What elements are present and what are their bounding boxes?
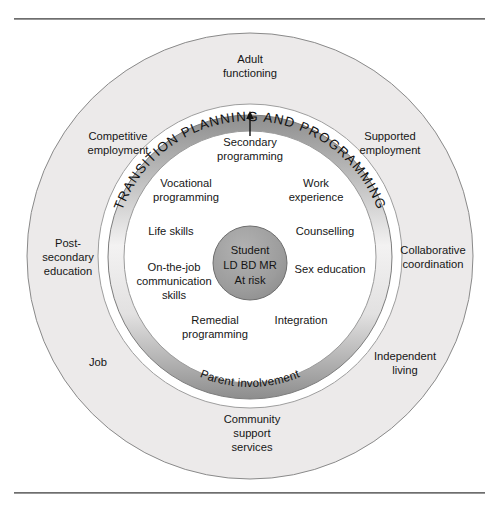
- label-line: Remedial: [191, 314, 238, 326]
- label-line: experience: [289, 191, 344, 203]
- label-line: support: [233, 427, 271, 439]
- label-counselling: Counselling: [296, 225, 354, 237]
- label-line: employment: [88, 144, 150, 156]
- label-line: programming: [217, 150, 283, 162]
- label-line: Adult: [237, 53, 263, 65]
- concentric-diagram: TRANSITION PLANNING AND PROGRAMMING Pare…: [0, 0, 499, 508]
- label-line: employment: [360, 144, 422, 156]
- label-line: functioning: [223, 67, 277, 79]
- figure-page: TRANSITION PLANNING AND PROGRAMMING Pare…: [0, 0, 499, 508]
- label-line: secondary: [42, 251, 94, 263]
- label-line: Supported: [364, 130, 416, 142]
- label-line: communication: [136, 275, 211, 287]
- label-line: Competitive: [88, 130, 147, 142]
- label-line: Work: [303, 177, 329, 189]
- label-line: programming: [153, 191, 219, 203]
- label-line: Vocational: [160, 177, 212, 189]
- label-line: Sex education: [295, 263, 366, 275]
- label-line: Independent: [374, 350, 437, 362]
- label-line: Collaborative: [400, 244, 465, 256]
- label-line: Community: [224, 413, 281, 425]
- label-line: services: [231, 441, 272, 453]
- label-integration: Integration: [275, 314, 328, 326]
- label-line: programming: [182, 328, 248, 340]
- label-line: Student: [231, 244, 270, 256]
- label-line: Counselling: [296, 225, 354, 237]
- label-line: Life skills: [148, 225, 194, 237]
- label-line: Secondary: [223, 136, 277, 148]
- label-line: Post-: [55, 237, 81, 249]
- label-line: Integration: [275, 314, 328, 326]
- label-line: Job: [89, 356, 107, 368]
- label-life-skills: Life skills: [148, 225, 194, 237]
- label-line: living: [392, 364, 418, 376]
- label-sex-education: Sex education: [295, 263, 366, 275]
- label-line: coordination: [403, 258, 464, 270]
- label-line: LD BD MR: [223, 259, 276, 271]
- label-line: On-the-job: [148, 261, 201, 273]
- label-line: skills: [162, 289, 187, 301]
- label-job: Job: [89, 356, 107, 368]
- label-line: At risk: [234, 274, 265, 286]
- label-line: education: [44, 265, 93, 277]
